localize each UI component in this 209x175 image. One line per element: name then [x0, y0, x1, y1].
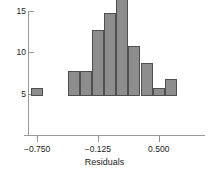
histogram-chart: 51015 −0.750−0.1250.500 Residuals	[0, 0, 209, 175]
x-axis-title: Residuals	[0, 158, 209, 167]
histogram-bar	[116, 0, 128, 96]
histogram-bar	[104, 13, 116, 96]
histogram-bar	[165, 79, 177, 96]
x-tick-mark	[159, 136, 160, 142]
x-tick-label: 0.500	[148, 145, 169, 154]
histogram-bar	[153, 88, 165, 96]
histogram-bar	[141, 63, 153, 96]
histogram-bar	[128, 46, 140, 96]
plot-area: 51015 −0.750−0.1250.500	[0, 0, 209, 175]
x-tick-label: −0.125	[85, 145, 111, 154]
histogram-bars	[0, 0, 209, 136]
histogram-bar	[92, 30, 104, 96]
x-tick-mark	[37, 136, 38, 142]
histogram-bar	[68, 71, 80, 96]
x-tick-mark	[98, 136, 99, 142]
histogram-bar	[80, 71, 92, 96]
histogram-bar	[31, 88, 43, 96]
x-tick-label: −0.750	[24, 145, 50, 154]
